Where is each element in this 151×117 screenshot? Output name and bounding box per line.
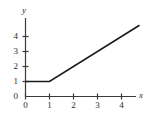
y-axis-label: y xyxy=(22,6,26,15)
y-tick-label-1: 1 xyxy=(6,77,18,86)
chart-figure: y x 0 1 2 3 4 0 1 2 3 4 xyxy=(0,0,151,117)
x-tick-label-2: 2 xyxy=(68,101,80,110)
x-tick-label-0: 0 xyxy=(20,101,32,110)
x-axis-label: x xyxy=(139,91,143,100)
x-tick-label-1: 1 xyxy=(44,101,56,110)
y-tick-label-2: 2 xyxy=(6,62,18,71)
x-tick-label-3: 3 xyxy=(92,101,104,110)
y-tick-label-3: 3 xyxy=(6,47,18,56)
y-tick-label-0: 0 xyxy=(6,92,18,101)
x-tick-label-4: 4 xyxy=(116,101,128,110)
y-tick-label-4: 4 xyxy=(6,32,18,41)
data-series-line xyxy=(26,25,140,81)
